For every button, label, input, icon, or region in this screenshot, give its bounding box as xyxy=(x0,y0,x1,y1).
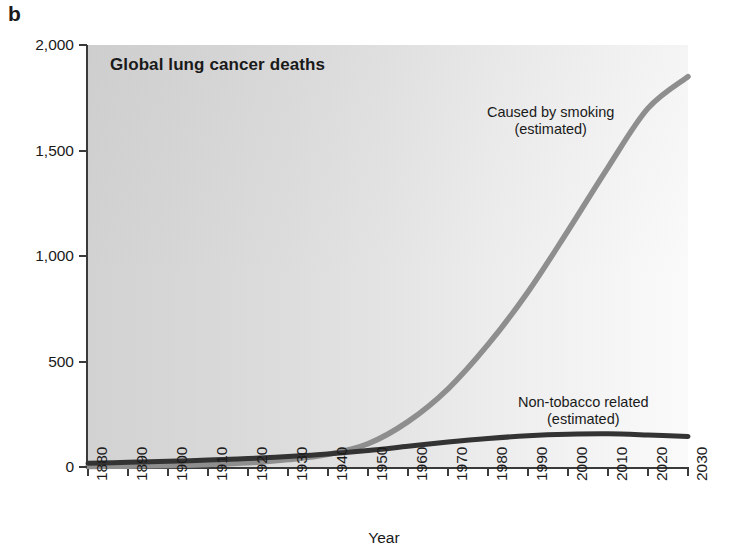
x-tick-label: 2020 xyxy=(654,447,670,481)
x-tick-mark xyxy=(407,469,409,476)
x-tick-label: 1880 xyxy=(94,447,110,481)
y-axis-tick-labels: 05001,0001,5002,000 xyxy=(0,0,74,553)
x-tick-label: 1890 xyxy=(134,447,150,481)
annotation-nontobacco-line2: (estimated) xyxy=(518,411,649,428)
y-tick-mark xyxy=(79,255,87,257)
y-tick-label: 1,500 xyxy=(14,143,74,158)
figure-panel-b: b Lung cancer deaths per year (thousands… xyxy=(0,0,730,553)
x-tick-label: 1930 xyxy=(294,447,310,481)
x-tick-mark xyxy=(527,469,529,476)
y-tick-label: 1,000 xyxy=(14,248,74,263)
x-tick-mark xyxy=(87,469,89,476)
x-tick-label: 1980 xyxy=(494,447,510,481)
x-tick-label: 2010 xyxy=(614,447,630,481)
x-tick-mark xyxy=(687,469,689,476)
x-tick-mark xyxy=(567,469,569,476)
y-tick-label: 500 xyxy=(14,354,74,369)
x-tick-label: 2030 xyxy=(694,447,710,481)
x-tick-mark xyxy=(487,469,489,476)
x-tick-label: 1920 xyxy=(254,447,270,481)
annotation-smoking-line2: (estimated) xyxy=(487,121,614,138)
x-tick-label: 1940 xyxy=(334,447,350,481)
x-tick-mark xyxy=(287,469,289,476)
x-tick-label: 1900 xyxy=(174,447,190,481)
annotation-non-tobacco-related: Non-tobacco related (estimated) xyxy=(518,394,649,428)
x-tick-mark xyxy=(247,469,249,476)
y-tick-mark xyxy=(79,44,87,46)
annotation-smoking-line1: Caused by smoking xyxy=(487,104,614,121)
x-tick-label: 1950 xyxy=(374,447,390,481)
x-tick-mark xyxy=(207,469,209,476)
x-tick-mark xyxy=(647,469,649,476)
annotation-nontobacco-line1: Non-tobacco related xyxy=(518,394,649,411)
x-tick-label: 1970 xyxy=(454,447,470,481)
x-tick-mark xyxy=(607,469,609,476)
x-tick-mark xyxy=(327,469,329,476)
x-axis-title: Year xyxy=(0,529,730,547)
x-tick-label: 1960 xyxy=(414,447,430,481)
x-tick-mark xyxy=(447,469,449,476)
x-tick-mark xyxy=(367,469,369,476)
y-tick-mark xyxy=(79,466,87,468)
y-tick-mark xyxy=(79,150,87,152)
annotation-caused-by-smoking: Caused by smoking (estimated) xyxy=(487,104,614,138)
x-tick-mark xyxy=(167,469,169,476)
y-tick-mark xyxy=(79,361,87,363)
x-tick-label: 2000 xyxy=(574,447,590,481)
x-tick-label: 1910 xyxy=(214,447,230,481)
x-tick-mark xyxy=(127,469,129,476)
y-tick-label: 0 xyxy=(14,459,74,474)
x-tick-label: 1990 xyxy=(534,447,550,481)
y-tick-label: 2,000 xyxy=(14,37,74,52)
